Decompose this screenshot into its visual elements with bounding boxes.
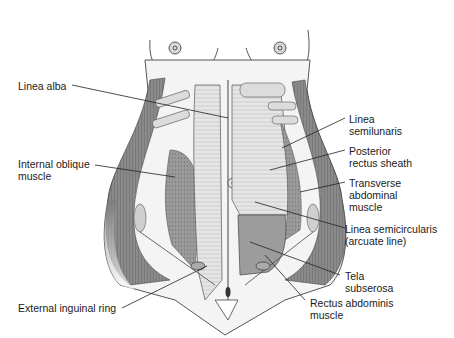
label-external-inguinal-ring: External inguinal ring xyxy=(18,302,116,314)
label-transverse-abdominal-muscle: Transverse abdominal muscle xyxy=(349,177,401,213)
label-linea-alba: Linea alba xyxy=(18,80,66,92)
torso-outline xyxy=(104,60,346,335)
label-rectus-abdominis-muscle: Rectus abdominis muscle xyxy=(310,297,393,321)
label-tela-subserosa: Tela subserosa xyxy=(345,270,393,294)
label-linea-semilunaris: Linea semilunaris xyxy=(349,113,402,137)
label-linea-semicircularis: Linea semicircularis (arcuate line) xyxy=(345,223,437,247)
label-internal-oblique-muscle: Internal oblique muscle xyxy=(18,158,90,182)
anatomy-figure: Linea alba Internal oblique muscle Exter… xyxy=(0,0,454,338)
label-posterior-rectus-sheath: Posterior rectus sheath xyxy=(349,145,412,169)
